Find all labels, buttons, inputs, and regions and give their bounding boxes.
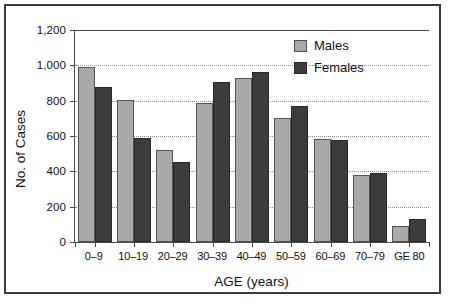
bar-females[interactable] (331, 140, 348, 242)
bar-group (193, 30, 232, 242)
legend-item-males: Males (294, 38, 364, 53)
x-tick (173, 242, 174, 247)
legend-swatch-females (294, 62, 307, 74)
bar-females[interactable] (173, 162, 190, 242)
legend-label-females: Females (314, 60, 364, 75)
chart-legend: Males Females (294, 38, 364, 75)
x-axis-label: 70–79 (350, 250, 389, 262)
legend-swatch-males (294, 40, 307, 52)
x-tick (331, 242, 332, 247)
x-axis-label: 10–19 (113, 250, 152, 262)
legend-label-males: Males (314, 38, 349, 53)
bar-group (232, 30, 271, 242)
bar-group (114, 30, 153, 242)
x-tick-edge (429, 242, 430, 247)
plot-area: 02004006008001,0001,200 (74, 30, 429, 243)
x-axis-label: 50–59 (271, 250, 310, 262)
x-axis-label: 60–69 (311, 250, 350, 262)
x-axis-title: AGE (years) (74, 274, 429, 289)
x-tick-edge (75, 242, 76, 247)
bar-males[interactable] (117, 100, 134, 242)
bar-group (390, 30, 429, 242)
x-axis-label: 30–39 (192, 250, 231, 262)
y-axis-title: No. of Cases (13, 110, 28, 188)
bar-males[interactable] (274, 118, 291, 242)
x-tick (95, 242, 96, 247)
x-axis-label: 40–49 (232, 250, 271, 262)
bar-females[interactable] (213, 82, 230, 242)
x-axis-label: 0–9 (74, 250, 113, 262)
legend-item-females: Females (294, 60, 364, 75)
y-tick-label-600: 600 (47, 130, 67, 142)
y-tick-label-200: 200 (47, 201, 67, 213)
bar-females[interactable] (291, 106, 308, 242)
x-tick (370, 242, 371, 247)
bar-females[interactable] (409, 219, 426, 242)
x-axis-label: 20–29 (153, 250, 192, 262)
chart-figure: No. of Cases AGE (years) 02004006008001,… (4, 4, 441, 294)
y-tick-label-1200: 1,200 (37, 24, 66, 36)
bar-group (154, 30, 193, 242)
y-tick-label-400: 400 (47, 165, 67, 177)
x-tick (134, 242, 135, 247)
bar-males[interactable] (392, 226, 409, 242)
bar-groups (75, 30, 429, 242)
x-axis-label: GE 80 (390, 250, 429, 262)
y-tick-label-1000: 1,000 (37, 59, 66, 71)
bar-males[interactable] (196, 103, 213, 242)
bar-females[interactable] (252, 72, 269, 242)
bar-females[interactable] (370, 173, 387, 242)
x-tick (252, 242, 253, 247)
y-tick-label-800: 800 (47, 95, 67, 107)
bar-males[interactable] (353, 175, 370, 242)
x-tick (213, 242, 214, 247)
x-axis-tick-labels: 0–910–1920–2930–3940–4950–5960–6970–79GE… (74, 250, 429, 262)
bar-males[interactable] (156, 150, 173, 242)
x-tick (409, 242, 410, 247)
bar-males[interactable] (314, 139, 331, 242)
x-tick (291, 242, 292, 247)
bar-group (75, 30, 114, 242)
bar-females[interactable] (95, 87, 112, 242)
bar-males[interactable] (235, 78, 252, 242)
bar-females[interactable] (134, 138, 151, 242)
bar-males[interactable] (78, 67, 95, 242)
y-tick-label-0: 0 (60, 236, 67, 248)
